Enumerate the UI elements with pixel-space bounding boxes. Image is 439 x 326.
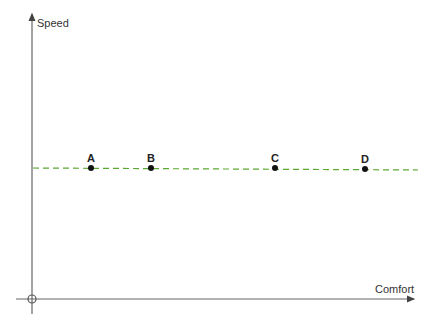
point-c: C [271, 152, 279, 171]
svg-text:A: A [87, 152, 95, 164]
point-a: A [87, 152, 95, 171]
chart: Speed Comfort A B C D [0, 0, 439, 326]
y-axis-label: Speed [37, 17, 69, 29]
point-d: D [361, 153, 369, 172]
svg-text:C: C [271, 152, 279, 164]
svg-text:D: D [361, 153, 369, 165]
x-axis-label: Comfort [375, 283, 414, 295]
svg-text:B: B [147, 152, 155, 164]
point-b: B [147, 152, 155, 171]
